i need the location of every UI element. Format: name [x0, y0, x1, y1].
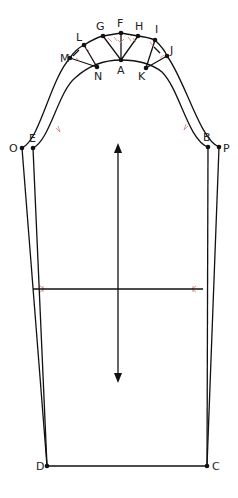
label-H: H — [135, 20, 143, 33]
label-O: O — [9, 142, 18, 155]
label-I: I — [155, 23, 158, 36]
label-G: G — [96, 20, 105, 33]
label-F: F — [117, 17, 123, 30]
label-B: B — [203, 131, 211, 144]
label-A: A — [117, 64, 125, 77]
label-K: K — [138, 70, 146, 83]
label-N: N — [94, 70, 102, 83]
sleeve-diagram: A B C D E F G H I J K L M N O P — [0, 0, 238, 498]
label-J: J — [169, 44, 173, 57]
label-C: C — [212, 460, 220, 473]
label-L: L — [76, 31, 83, 44]
label-E: E — [29, 132, 36, 145]
seam-P-C — [207, 147, 219, 466]
line-A-G — [103, 36, 121, 60]
label-P: P — [223, 142, 230, 155]
label-M: M — [60, 52, 70, 65]
seam-B-C — [207, 147, 208, 466]
grain-arrow — [114, 143, 122, 383]
cap-arrow-right — [154, 47, 160, 53]
label-D: D — [36, 460, 44, 473]
